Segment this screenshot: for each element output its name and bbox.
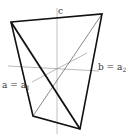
quadrilateral-outline (11, 14, 102, 129)
label-b: b = a2 (98, 62, 126, 73)
thick-diagonal (11, 22, 80, 129)
quadrilateral-diagram: c a = a1 b = a2 (0, 0, 126, 137)
label-a-sub: 1 (26, 84, 30, 91)
label-a-main: a = a (2, 80, 27, 90)
label-c: c (58, 6, 63, 16)
label-b-main: b = a (98, 62, 123, 72)
label-b-sub: 2 (122, 66, 126, 73)
label-a: a = a1 (2, 80, 30, 91)
